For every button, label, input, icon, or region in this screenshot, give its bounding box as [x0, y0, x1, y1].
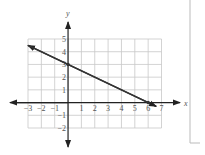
y-tick-label: 5	[62, 35, 66, 44]
y-axis-label: y	[65, 9, 70, 18]
x-tick-label: −2	[37, 104, 46, 113]
y-tick-label: 1	[62, 86, 66, 95]
data-point	[146, 101, 150, 105]
x-tick-label: 7	[160, 104, 164, 113]
data-point	[66, 63, 70, 67]
x-tick-label: −3	[24, 104, 33, 113]
x-tick-label: 3	[106, 104, 110, 113]
x-tick-label: 1	[79, 104, 83, 113]
x-tick-label: 6	[146, 104, 150, 113]
y-tick-label: 4	[62, 48, 66, 57]
x-axis-label: x	[183, 99, 188, 108]
series-line-arrow	[28, 45, 156, 106]
x-tick-label: 2	[93, 104, 97, 113]
x-tick-label: 4	[119, 104, 123, 113]
y-tick-label: −1	[58, 111, 67, 120]
x-tick-label: 5	[133, 104, 137, 113]
y-tick-label: −2	[58, 124, 67, 133]
y-tick-label: 2	[62, 73, 66, 82]
line-chart: xy−3−2−11234567−2−112345	[0, 0, 205, 155]
